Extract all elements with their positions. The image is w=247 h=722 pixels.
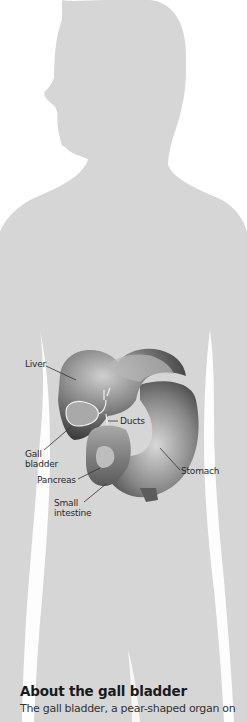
article-heading: About the gall bladder <box>20 683 187 699</box>
label-ducts: Ducts <box>120 416 145 426</box>
gall-bladder <box>66 401 98 426</box>
label-small-intestine-1: Small <box>54 498 78 508</box>
label-gall-bladder-1: Gall <box>25 449 42 459</box>
label-gall-bladder-2: bladder <box>25 459 58 469</box>
label-pancreas: Pancreas <box>37 475 76 485</box>
article-body: The gall bladder, a pear-shaped organ on <box>20 702 235 715</box>
label-small-intestine-2: intestine <box>54 508 91 518</box>
label-liver: Liver <box>25 359 46 369</box>
label-stomach: Stomach <box>181 466 219 476</box>
